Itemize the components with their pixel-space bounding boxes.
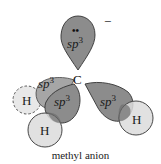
carbon-label: C	[73, 72, 82, 87]
label-h-right: H	[132, 112, 141, 127]
label-h-bottom: H	[40, 123, 49, 138]
label-h-back: H	[22, 93, 31, 108]
charge-label: −	[104, 14, 111, 29]
caption: methyl anion	[52, 149, 110, 161]
methyl-anion-diagram: •• sp3 sp3 sp3 sp3 C − H H H methyl anio…	[0, 0, 161, 164]
